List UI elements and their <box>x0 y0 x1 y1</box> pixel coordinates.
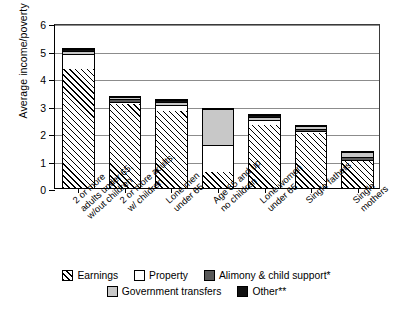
legend-swatch-icon <box>107 286 118 297</box>
y-axis-tick-label: 5 <box>40 47 46 58</box>
plot-wrapper: 0123456 <box>54 24 380 189</box>
bar-segment-earnings <box>63 69 94 188</box>
legend-swatch-icon <box>62 270 73 281</box>
legend-label: Government transfers <box>122 286 222 297</box>
legend-swatch-icon <box>134 270 145 281</box>
income-poverty-stacked-bar-chart: Average income/poverty line 0123456 2 or… <box>0 0 393 325</box>
y-axis-tick-label: 2 <box>40 130 46 141</box>
x-axis-labels: 2 or more adults under 65, w/out childre… <box>54 196 393 266</box>
y-axis-tick-label: 6 <box>40 20 46 31</box>
bar-group <box>55 25 379 188</box>
y-axis-tick-label: 4 <box>40 75 46 86</box>
y-axis-tick <box>49 190 55 191</box>
legend-label: Earnings <box>77 270 118 281</box>
legend-swatch-icon <box>204 270 215 281</box>
legend-label: Alimony & child support* <box>219 270 331 281</box>
bar-segment-property <box>203 145 234 172</box>
plot-area: 0123456 <box>54 24 380 189</box>
legend-item-alimony-child-support: Alimony & child support* <box>204 270 331 281</box>
legend-swatch-icon <box>237 286 248 297</box>
legend-item-government-transfers: Government transfers <box>107 286 222 297</box>
bar-segment-government-transfers <box>203 109 234 145</box>
y-axis-title: Average income/poverty line <box>17 0 29 136</box>
legend-row-2: Government transfersOther** <box>0 286 393 297</box>
legend-row-1: EarningsPropertyAlimony & child support* <box>0 270 393 281</box>
y-axis-tick-label: 3 <box>40 102 46 113</box>
y-axis-tick-label: 0 <box>40 185 46 196</box>
legend-item-earnings: Earnings <box>62 270 118 281</box>
bar-1 <box>62 48 95 188</box>
legend-item-other: Other** <box>237 286 286 297</box>
y-axis-tick-label: 1 <box>40 157 46 168</box>
legend-label: Other** <box>252 286 286 297</box>
chart-legend: EarningsPropertyAlimony & child support*… <box>0 270 393 302</box>
bar-4 <box>202 108 235 188</box>
legend-label: Property <box>149 270 188 281</box>
bar-segment-property <box>63 54 94 69</box>
legend-item-property: Property <box>134 270 188 281</box>
